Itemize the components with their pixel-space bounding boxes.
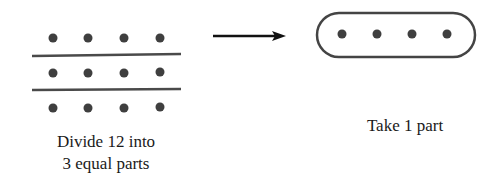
dot	[49, 34, 58, 43]
dot-row-1	[49, 34, 165, 43]
right-caption: Take 1 part	[335, 115, 475, 137]
divider-line-1	[32, 54, 181, 56]
dot-row-2	[49, 68, 165, 78]
left-caption-line-1: Divide 12 into	[26, 131, 186, 153]
divider-line-2	[32, 89, 181, 90]
dot	[84, 69, 93, 78]
dot	[84, 104, 93, 113]
left-dot-grid	[32, 34, 181, 113]
dot	[338, 30, 347, 39]
dot-row-3	[49, 103, 165, 113]
dot	[120, 104, 129, 113]
dot	[156, 68, 165, 77]
dot	[120, 69, 129, 78]
dot	[408, 30, 417, 39]
dot	[373, 30, 382, 39]
left-caption: Divide 12 into 3 equal parts	[26, 131, 186, 175]
dot	[120, 34, 129, 43]
dot	[84, 34, 93, 43]
dot	[156, 103, 165, 112]
taken-part-group	[317, 13, 475, 57]
dot	[49, 104, 58, 113]
dot	[49, 69, 58, 78]
left-caption-line-2: 3 equal parts	[26, 153, 186, 175]
dot	[156, 34, 165, 43]
right-arrow-icon	[213, 31, 286, 41]
dot	[443, 30, 452, 39]
